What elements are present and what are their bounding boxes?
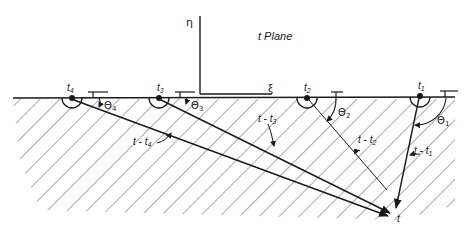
angle-theta3-label: Θ3 xyxy=(191,101,203,113)
angle-theta1-label: Θ1 xyxy=(437,116,449,128)
xi-axis-label: ξ xyxy=(268,83,273,94)
angle-theta2-label: Θ2 xyxy=(338,108,350,120)
hatched-region xyxy=(0,99,464,233)
eta-axis-label: η xyxy=(186,17,193,28)
axes xyxy=(200,16,272,94)
source-t2-label: t2 xyxy=(304,83,311,94)
source-t4-label: t4 xyxy=(67,83,74,94)
vector-t-t4-label: t - t4 xyxy=(133,137,151,148)
vector-t-t2-label: t - t2 xyxy=(358,135,376,146)
vector-t-t3-label: t - t3 xyxy=(258,114,276,125)
diagram-canvas xyxy=(0,0,464,233)
angle-theta4-label: Θ4 xyxy=(104,101,116,113)
plane-label: t Plane xyxy=(258,31,292,42)
source-t1-label: t1 xyxy=(418,81,425,92)
source-t3-label: t3 xyxy=(157,83,164,94)
target-t-label: t xyxy=(397,214,400,224)
boundary-line xyxy=(13,97,455,98)
source-t1-dot xyxy=(417,93,423,99)
vector-t-t1-label: t - t1 xyxy=(414,146,432,157)
